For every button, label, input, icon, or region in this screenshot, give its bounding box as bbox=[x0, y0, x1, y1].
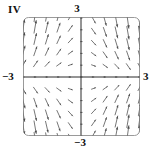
axis-label-bottom: −3 bbox=[74, 137, 86, 148]
direction-field-figure: IV 3 −3 −3 3 bbox=[0, 0, 154, 152]
field-arrowhead bbox=[58, 141, 60, 143]
field-arrowhead bbox=[22, 7, 25, 10]
axis-label-left: −3 bbox=[2, 71, 14, 82]
axis-label-right: 3 bbox=[143, 71, 149, 82]
field-arrowhead bbox=[71, 139, 73, 141]
field-arrowhead bbox=[71, 13, 73, 15]
direction-field-plot bbox=[0, 0, 154, 152]
field-arrowhead bbox=[22, 144, 25, 147]
field-arrowhead bbox=[34, 143, 37, 146]
field-arrowhead bbox=[46, 9, 48, 12]
axis-label-top: 3 bbox=[74, 3, 80, 14]
field-arrowhead bbox=[140, 68, 142, 70]
field-arrowhead bbox=[46, 142, 48, 145]
field-arrowhead bbox=[58, 11, 60, 13]
field-arrowhead bbox=[34, 8, 37, 11]
field-arrowhead bbox=[140, 84, 142, 86]
